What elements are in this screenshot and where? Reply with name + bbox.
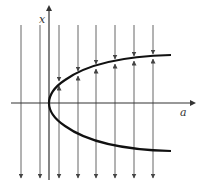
flow-lines-right [59, 25, 153, 178]
bifurcation-diagram: x a [0, 0, 204, 186]
x-axis-label: x [39, 13, 46, 26]
a-axis-label: a [180, 106, 187, 119]
flow-lines-left [21, 25, 40, 178]
